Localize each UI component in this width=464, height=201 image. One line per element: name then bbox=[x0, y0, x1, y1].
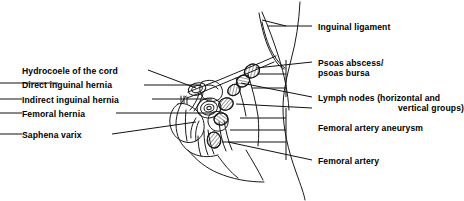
label-psoas-abscess-line1: Psoas abscess/ bbox=[318, 58, 383, 68]
label-indirect-inguinal-hernia: Indirect inguinal hernia bbox=[22, 95, 119, 105]
label-hydrocoele-of-the-cord: Hydrocoele of the cord bbox=[22, 66, 118, 76]
label-inguinal-ligament: Inguinal ligament bbox=[318, 22, 390, 32]
leader-saphena-varix bbox=[112, 122, 196, 134]
lymph-node-vertical-1 bbox=[213, 112, 229, 126]
torso-flank-outline bbox=[283, 2, 305, 200]
label-saphena-varix: Saphena varix bbox=[22, 130, 82, 140]
label-femoral-artery-aneurysm: Femoral artery aneurysm bbox=[318, 123, 423, 133]
leg-crease bbox=[246, 150, 263, 180]
label-lymph-nodes-line2: vertical groups) bbox=[318, 103, 464, 113]
label-femoral-hernia: Femoral hernia bbox=[22, 109, 85, 119]
figure-container: Hydrocoele of the cord Direct inguinal h… bbox=[0, 0, 464, 201]
label-femoral-artery: Femoral artery bbox=[318, 156, 379, 166]
label-lymph-nodes-line1: Lymph nodes (horizontal and bbox=[318, 93, 440, 103]
vessel-strand-3 bbox=[198, 136, 201, 156]
label-psoas-abscess-line2: psoas bursa bbox=[318, 68, 370, 78]
femoral-artery-2 bbox=[224, 121, 232, 150]
leader-femoral-artery-aneurysm bbox=[236, 104, 312, 108]
label-direct-inguinal-hernia: Direct inguinal hernia bbox=[22, 80, 112, 90]
scrotum-raphe bbox=[185, 110, 187, 141]
leader-lymph-nodes bbox=[241, 83, 312, 97]
leader-femoral-artery bbox=[228, 142, 312, 160]
leader-inguinal-ligament-2 bbox=[262, 20, 286, 26]
